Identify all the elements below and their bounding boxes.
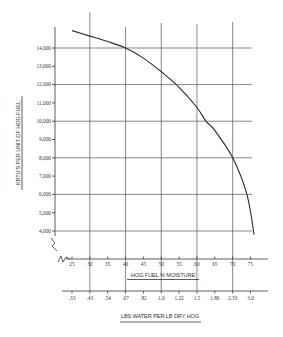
secondary-x-tick-label: .33 — [69, 295, 76, 301]
y-tick-label: 8,000 — [39, 155, 51, 161]
y-tick-label: 11,000 — [37, 100, 52, 106]
x-tick-label: 65 — [212, 261, 218, 267]
secondary-x-tick-label: .82 — [140, 295, 147, 301]
x-tick-label: 75 — [248, 261, 254, 267]
x-tick-label: 35 — [105, 261, 111, 267]
secondary-x-tick-label: 1.22 — [174, 295, 184, 301]
y-tick-label: 12,000 — [36, 81, 51, 87]
x-tick-label: 70 — [230, 261, 236, 267]
secondary-x-tick-label: 1.5 — [194, 295, 201, 301]
secondary-x-tick-label: 3.0 — [247, 295, 254, 301]
x-tick-label: 25 — [69, 261, 75, 267]
x-tick-label: 60 — [194, 261, 200, 267]
y-tick-label: 10,000 — [36, 118, 51, 124]
y-tick-label: 5,000 — [39, 210, 51, 216]
secondary-x-tick-label: .54 — [104, 295, 111, 301]
secondary-x-tick-label: 1.86 — [210, 295, 220, 301]
x-axis-title: HOG FUEL % MOISTURE — [131, 272, 195, 278]
y-tick-label: 9,000 — [39, 136, 51, 142]
secondary-x-tick-label: 2.33 — [228, 295, 238, 301]
x-tick-label: 45 — [141, 261, 147, 267]
y-axis-ticks: 14,00013,00012,00011,00010,0009,0008,000… — [36, 45, 55, 234]
y-tick-label: 6,000 — [39, 191, 51, 197]
x-axis-ticks: 2530354045505560657075 — [69, 257, 253, 268]
gridlines — [55, 12, 252, 291]
x-tick-label: 40 — [123, 261, 129, 267]
y-tick-label: 13,000 — [36, 63, 51, 69]
secondary-x-tick-label: .67 — [122, 295, 129, 301]
moisture-vs-kbtu-chart: 14,00013,00012,00011,00010,0009,0008,000… — [0, 0, 283, 337]
y-tick-label: 4,000 — [39, 228, 51, 234]
y-axis-break-icon — [51, 238, 57, 251]
x-tick-label: 30 — [87, 261, 93, 267]
secondary-x-tick-label: 1.0 — [158, 295, 165, 301]
data-curve — [72, 31, 254, 235]
secondary-x-axis-ticks: .33.43.54.67.821.01.221.51.862.333.0 — [69, 291, 254, 301]
y-tick-label: 14,000 — [36, 45, 51, 51]
y-tick-label: 7,000 — [39, 173, 51, 179]
secondary-x-tick-label: .43 — [87, 295, 94, 301]
axes — [51, 27, 268, 291]
x-tick-label: 50 — [159, 261, 165, 267]
y-axis-title: KBTU'S PER UNIT OF HOG FUEL — [15, 101, 21, 185]
x-tick-label: 55 — [176, 261, 182, 267]
secondary-x-axis-title: LBS WATER PER LB DRY HOG — [121, 313, 199, 319]
